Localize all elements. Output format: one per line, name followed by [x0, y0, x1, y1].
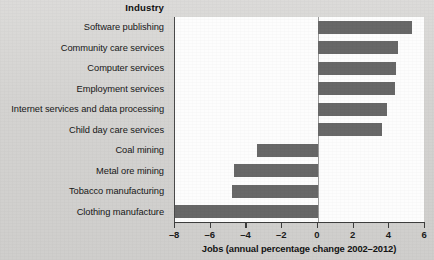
x-tick	[424, 222, 425, 228]
category-labels: Software publishingCommunity care servic…	[0, 17, 170, 222]
category-label: Tobacco manufacturing	[69, 181, 164, 202]
bar	[318, 103, 388, 116]
x-tick	[245, 222, 246, 228]
category-label: Clothing manufacture	[77, 202, 164, 223]
bar	[318, 41, 398, 54]
x-tick	[210, 222, 211, 228]
x-axis-title: Jobs (annual percentage change 2002–2012…	[174, 243, 424, 254]
x-tick-label: –4	[240, 229, 250, 240]
category-label: Metal ore mining	[96, 161, 164, 182]
x-tick-label: –6	[205, 229, 215, 240]
bar	[257, 144, 318, 157]
bar	[318, 123, 382, 136]
x-tick-label: –2	[276, 229, 286, 240]
x-tick	[353, 222, 354, 228]
category-label: Computer services	[87, 58, 164, 79]
bars-container	[175, 17, 424, 222]
x-tick-label: –8	[169, 229, 179, 240]
category-axis-title: Industry	[0, 2, 170, 13]
bar	[318, 62, 397, 75]
x-tick	[174, 222, 175, 228]
x-axis-line	[174, 222, 424, 223]
bar	[318, 21, 413, 34]
x-tick	[317, 222, 318, 228]
x-tick	[388, 222, 389, 228]
category-label: Child day care services	[69, 120, 164, 141]
category-label: Community care services	[61, 38, 164, 59]
bar	[234, 164, 318, 177]
category-label: Software publishing	[84, 17, 164, 38]
plot-area	[174, 17, 424, 222]
x-tick-label: 2	[350, 229, 355, 240]
x-tick-label: 0	[314, 229, 319, 240]
bar	[232, 185, 318, 198]
x-tick	[281, 222, 282, 228]
bar	[175, 205, 318, 218]
bar	[318, 82, 395, 95]
x-tick-label: 6	[421, 229, 426, 240]
category-label: Employment services	[77, 79, 164, 100]
x-tick-label: 4	[386, 229, 391, 240]
chart-figure: Industry Software publishingCommunity ca…	[0, 0, 434, 260]
category-label: Coal mining	[115, 140, 164, 161]
category-label: Internet services and data processing	[11, 99, 164, 120]
